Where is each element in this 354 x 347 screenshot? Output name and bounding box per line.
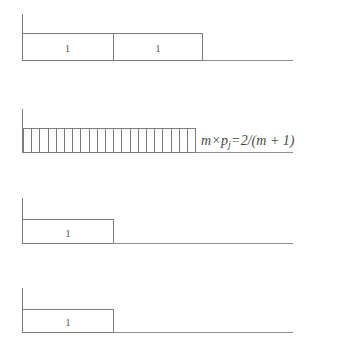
equation-annotation-row-2: m×pj=2/(m + 1): [201, 134, 295, 150]
bar-cell-label-row-1-cell-2: 1: [113, 43, 203, 54]
bar-cell-label-row-1-cell-1: 1: [22, 43, 113, 54]
bar-cell-label-row-4-cell-1: 1: [22, 317, 114, 328]
bar-diagram-figure: 1 1 m×pj=2/(m + 1) 1 1: [0, 0, 354, 347]
equation-rhs: 2/(m + 1): [241, 133, 295, 148]
equation-operator: ×: [211, 133, 221, 148]
equation-equals: =: [231, 133, 241, 148]
bar-cell-label-row-3-cell-1: 1: [22, 228, 114, 239]
equation-lhs-term: p: [221, 133, 228, 148]
hatched-bar-row-2: [22, 128, 196, 153]
equation-lhs-factor: m: [201, 133, 211, 148]
